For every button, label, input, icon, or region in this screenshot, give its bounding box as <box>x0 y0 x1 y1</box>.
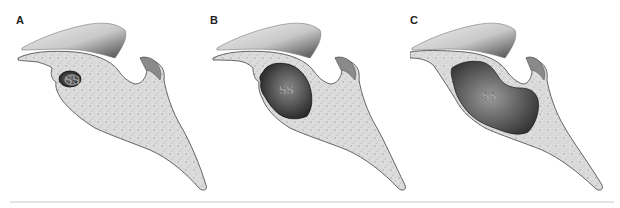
sinus-label-c: SS <box>482 90 497 102</box>
panel-a: A SS <box>0 0 207 200</box>
sphenoid-bone-illustration-b: SS <box>205 0 412 200</box>
sphenoid-bone-illustration-a: SS <box>0 0 207 200</box>
sinus-label-b: SS <box>279 84 294 96</box>
sphenoid-bone-shape <box>18 51 206 190</box>
bottom-divider <box>10 201 614 203</box>
sphenoid-bone-illustration-c: SS <box>410 0 617 200</box>
panel-b: B SS <box>205 0 412 200</box>
panel-c: C SS <box>410 0 617 200</box>
sinus-label-a: SS <box>65 74 80 86</box>
sphenoid-sinus-figure: A SS B SS C <box>0 0 620 208</box>
sphenoid-bone-shape <box>213 51 405 190</box>
